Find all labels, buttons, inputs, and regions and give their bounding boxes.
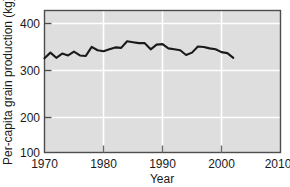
y-axis-title: Per-capita grain production (kg): [1, 0, 15, 165]
x-tick-label-1970: 1970: [31, 157, 58, 171]
grain-production-line-chart: 400 300 200 100 1970 1980 1990 2000 2010…: [0, 0, 290, 187]
y-tick-label-200: 200: [20, 111, 40, 125]
chart-figure: 400 300 200 100 1970 1980 1990 2000 2010…: [0, 0, 290, 187]
x-tick-label-1990: 1990: [149, 157, 176, 171]
y-tick-label-400: 400: [20, 17, 40, 31]
y-tick-label-300: 300: [20, 64, 40, 78]
x-tick-label-2000: 2000: [208, 157, 235, 171]
x-tick-label-1980: 1980: [90, 157, 117, 171]
x-axis-title: Year: [150, 172, 174, 186]
x-tick-label-2010: 2010: [265, 157, 290, 171]
